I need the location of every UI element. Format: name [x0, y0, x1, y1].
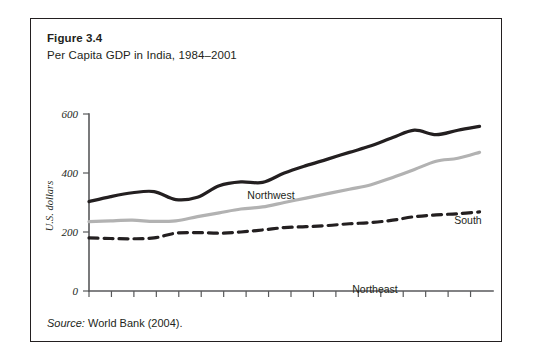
chart-plot: 0200400600 1984–851988–891992–931996–972…	[31, 71, 501, 301]
figure-number: Figure 3.4	[47, 31, 237, 47]
series-line-northeast	[89, 212, 480, 239]
figure-title: Per Capita GDP in India, 1984–2001	[47, 48, 237, 64]
source-text: World Bank (2004).	[85, 317, 183, 329]
series-line-south	[89, 152, 480, 221]
y-axis-title: U.S. dollars	[44, 181, 55, 231]
figure-caption: Figure 3.4 Per Capita GDP in India, 1984…	[47, 31, 237, 63]
series-lines	[89, 126, 480, 238]
series-annotations: NorthwestSouthNortheast	[247, 189, 482, 295]
figure-box: Figure 3.4 Per Capita GDP in India, 1984…	[30, 18, 502, 342]
x-axis: 1984–851988–891992–931996–972000–01	[74, 291, 493, 301]
y-axis-tick-label: 400	[62, 167, 79, 179]
series-label-northwest: Northwest	[247, 189, 294, 201]
series-label-northeast: Northeast	[352, 283, 398, 295]
y-axis-tick-label: 0	[73, 285, 79, 297]
line-chart-svg: 0200400600 1984–851988–891992–931996–972…	[31, 71, 501, 301]
series-label-south: South	[454, 214, 482, 226]
y-axis-tick-label: 600	[62, 108, 79, 120]
y-axis-tick-label: 200	[62, 226, 79, 238]
y-axis: 0200400600	[62, 108, 90, 297]
source-line: Source: World Bank (2004).	[47, 317, 183, 329]
source-label: Source:	[47, 317, 85, 329]
